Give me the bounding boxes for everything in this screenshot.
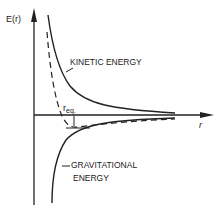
y-axis-label: E(r) xyxy=(6,14,21,24)
energy-diagram: E(r) r KINETIC ENERGY GRAVITATIONAL ENER… xyxy=(0,0,224,214)
gravitational-energy-label-line2: ENERGY xyxy=(73,173,109,183)
x-axis-label: r xyxy=(199,120,203,130)
y-axis-arrow-icon xyxy=(31,8,37,22)
equilibrium-label: req. xyxy=(63,103,76,115)
y-axis xyxy=(31,8,37,205)
gravitational-energy-label-line1: GRAVITATIONAL xyxy=(71,160,137,170)
kinetic-label-leader xyxy=(66,68,73,72)
kinetic-energy-label: KINETIC ENERGY xyxy=(70,57,142,67)
x-axis-arrow-icon xyxy=(200,112,214,118)
